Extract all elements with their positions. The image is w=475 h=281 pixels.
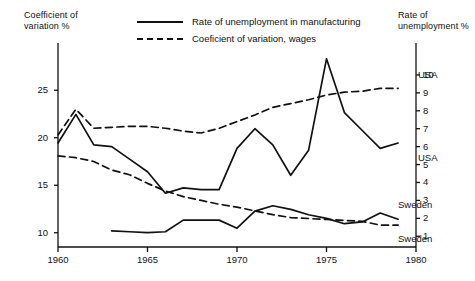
chart-figure: Coefficient of variation % Rate of unemp… (0, 0, 475, 281)
series-line-3 (112, 206, 398, 233)
x-tick-label-1965: 1965 (128, 254, 168, 265)
x-tick-label-1975: 1975 (307, 254, 347, 265)
sweden-solid-label: Sweden (398, 199, 432, 210)
usa-dashed-label: USA (418, 69, 438, 80)
left-tick-label-25: 25 (28, 84, 48, 95)
series-line-1 (58, 59, 398, 193)
left-tick-label-10: 10 (28, 227, 48, 238)
right-tick-label-2: 2 (423, 212, 441, 223)
left-tick-label-20: 20 (28, 132, 48, 143)
series-line-2 (58, 156, 398, 225)
plot-area: 101520251234567891019601965197019751980U… (0, 0, 475, 281)
x-tick-label-1960: 1960 (38, 254, 78, 265)
sweden-dashed-label: Sweden (398, 233, 432, 244)
x-tick-label-1970: 1970 (217, 254, 257, 265)
right-tick-label-6: 6 (423, 141, 441, 152)
right-tick-label-9: 9 (423, 87, 441, 98)
usa-solid-label: USA (418, 152, 438, 163)
right-tick-label-8: 8 (423, 105, 441, 116)
right-tick-label-4: 4 (423, 176, 441, 187)
left-tick-label-15: 15 (28, 179, 48, 190)
series-line-0 (58, 88, 398, 135)
x-tick-label-1980: 1980 (396, 254, 436, 265)
right-tick-label-7: 7 (423, 123, 441, 134)
